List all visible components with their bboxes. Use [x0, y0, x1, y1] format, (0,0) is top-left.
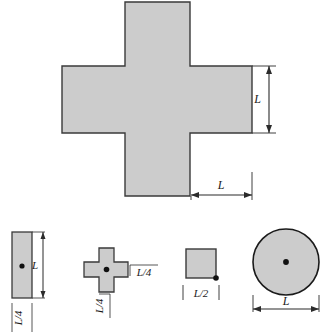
arrow-down: [266, 125, 272, 133]
nr-arrow-down: [41, 291, 46, 298]
small-cross-thickness-label: L/4: [93, 298, 105, 314]
ci-arrow-left: [253, 306, 261, 312]
main-dim-vertical: L: [252, 66, 276, 133]
small-cross-arm-width-label: L/4: [136, 266, 152, 278]
narrow-rectangle-height-label: L: [31, 259, 38, 271]
main-dim-horizontal: L: [191, 172, 252, 200]
circle-diameter-label: L: [282, 294, 290, 308]
arrow-left: [191, 192, 199, 198]
square-side-label: L/2: [193, 287, 209, 299]
arrow-up: [266, 66, 272, 74]
small-shape-square: L/2: [183, 249, 219, 300]
main-cross-polygon: [62, 2, 252, 196]
small-shape-circle: L: [253, 229, 319, 312]
nr-arrow-up: [41, 232, 46, 239]
diagram-canvas: L L L L/4 L/4 L/4: [0, 0, 330, 334]
narrow-rectangle-centroid-dot: [19, 263, 24, 268]
main-cross-shape: [62, 2, 252, 196]
narrow-rectangle-width-label: L/4: [12, 310, 24, 326]
small-shape-narrow-rectangle: L L/4: [12, 232, 46, 332]
small-shape-cross: L/4 L/4: [84, 248, 158, 318]
main-dim-vertical-label: L: [253, 92, 261, 106]
circle-centroid-dot: [283, 259, 289, 265]
ci-arrow-right: [311, 306, 319, 312]
square-corner-dot: [213, 275, 219, 281]
square-body: [186, 249, 216, 278]
arrow-right: [244, 192, 252, 198]
small-cross-centroid-dot: [104, 267, 110, 273]
main-dim-horizontal-label: L: [217, 178, 225, 192]
